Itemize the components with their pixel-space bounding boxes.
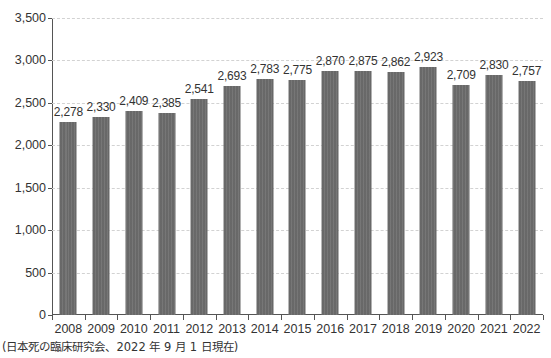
bar[interactable] xyxy=(387,72,404,315)
y-tick-mark xyxy=(48,145,52,146)
bar-group: 2,709 xyxy=(445,18,478,315)
bar[interactable] xyxy=(289,80,306,315)
bar-value-label: 2,278 xyxy=(54,105,83,119)
x-tick-label: 2022 xyxy=(513,322,541,336)
x-tick-mark xyxy=(445,315,446,320)
x-tick-label: 2017 xyxy=(349,322,377,336)
bar-group: 2,923 xyxy=(412,18,445,315)
x-tick-mark xyxy=(216,315,217,320)
bar-group: 2,541 xyxy=(183,18,216,315)
chart-footnote: (日本死の臨床研究会、2022 年 9 月 1 日現在) xyxy=(2,338,238,354)
bar[interactable] xyxy=(256,79,273,315)
bar-value-label: 2,875 xyxy=(348,54,377,68)
y-tick-label: 3,000 xyxy=(0,53,46,67)
bar[interactable] xyxy=(158,113,175,315)
y-tick-label: 2,000 xyxy=(0,138,46,152)
x-tick-label: 2011 xyxy=(153,322,180,336)
x-tick-label: 2014 xyxy=(251,322,279,336)
x-tick-label: 2012 xyxy=(185,322,213,336)
y-tick-label: 0 xyxy=(0,308,46,322)
x-tick-label: 2010 xyxy=(120,322,148,336)
bar-value-label: 2,409 xyxy=(119,94,148,108)
y-tick-mark xyxy=(48,103,52,104)
bar[interactable] xyxy=(93,117,110,315)
bar-value-label: 2,775 xyxy=(283,63,312,77)
bar-value-label: 2,693 xyxy=(218,69,247,83)
bar-group: 2,278 xyxy=(52,18,85,315)
x-tick-mark xyxy=(510,315,511,320)
y-tick-mark xyxy=(48,188,52,189)
y-tick-mark xyxy=(48,273,52,274)
bar-value-label: 2,385 xyxy=(152,96,181,110)
x-tick-mark xyxy=(248,315,249,320)
bar[interactable] xyxy=(485,75,502,315)
bar-value-label: 2,870 xyxy=(316,54,345,68)
bar[interactable] xyxy=(518,81,535,315)
bar[interactable] xyxy=(60,122,77,315)
x-tick-label: 2016 xyxy=(316,322,344,336)
bar-group: 2,783 xyxy=(248,18,281,315)
y-tick-label: 500 xyxy=(0,266,46,280)
bar-group: 2,693 xyxy=(216,18,249,315)
x-tick-label: 2020 xyxy=(447,322,475,336)
y-tick-label: 1,000 xyxy=(0,223,46,237)
bar-group: 2,870 xyxy=(314,18,347,315)
x-tick-label: 2009 xyxy=(87,322,115,336)
bar-value-label: 2,330 xyxy=(87,100,116,114)
x-tick-mark xyxy=(117,315,118,320)
bar-group: 2,830 xyxy=(478,18,511,315)
bar-value-label: 2,830 xyxy=(479,58,508,72)
x-tick-mark xyxy=(183,315,184,320)
x-tick-mark xyxy=(52,315,53,320)
x-tick-mark xyxy=(379,315,380,320)
x-tick-label: 2019 xyxy=(415,322,443,336)
bar-chart: 2,2782,3302,4092,3852,5412,6932,7832,775… xyxy=(0,0,551,358)
bar-group: 2,330 xyxy=(85,18,118,315)
x-tick-mark xyxy=(281,315,282,320)
bar-value-label: 2,709 xyxy=(447,68,476,82)
bar-group: 2,409 xyxy=(117,18,150,315)
bar-group: 2,757 xyxy=(510,18,543,315)
x-tick-mark xyxy=(85,315,86,320)
x-tick-mark xyxy=(150,315,151,320)
y-tick-label: 2,500 xyxy=(0,96,46,110)
bar-group: 2,862 xyxy=(379,18,412,315)
bar[interactable] xyxy=(224,86,241,315)
bar-value-label: 2,541 xyxy=(185,82,214,96)
y-tick-mark xyxy=(48,18,52,19)
bar[interactable] xyxy=(125,111,142,315)
x-tick-mark xyxy=(412,315,413,320)
y-tick-label: 3,500 xyxy=(0,11,46,25)
x-tick-label: 2021 xyxy=(480,322,508,336)
bar-group: 2,775 xyxy=(281,18,314,315)
x-tick-mark xyxy=(314,315,315,320)
y-tick-label: 1,500 xyxy=(0,181,46,195)
x-tick-mark xyxy=(347,315,348,320)
bar[interactable] xyxy=(322,71,339,315)
x-tick-label: 2008 xyxy=(54,322,82,336)
x-tick-mark xyxy=(543,315,544,320)
bar[interactable] xyxy=(191,99,208,315)
y-tick-mark xyxy=(48,230,52,231)
x-tick-mark xyxy=(478,315,479,320)
x-tick-label: 2018 xyxy=(382,322,410,336)
bar-value-label: 2,783 xyxy=(250,62,279,76)
y-tick-mark xyxy=(48,60,52,61)
bar-group: 2,875 xyxy=(347,18,380,315)
bar[interactable] xyxy=(420,67,437,315)
bar-value-label: 2,923 xyxy=(414,50,443,64)
x-tick-label: 2015 xyxy=(284,322,312,336)
x-tick-label: 2013 xyxy=(218,322,246,336)
bars-layer: 2,2782,3302,4092,3852,5412,6932,7832,775… xyxy=(52,18,543,315)
bar[interactable] xyxy=(354,71,371,315)
bar-group: 2,385 xyxy=(150,18,183,315)
plot-area: 2,2782,3302,4092,3852,5412,6932,7832,775… xyxy=(52,18,543,315)
bar-value-label: 2,862 xyxy=(381,55,410,69)
bar-value-label: 2,757 xyxy=(512,64,541,78)
bar[interactable] xyxy=(453,85,470,315)
